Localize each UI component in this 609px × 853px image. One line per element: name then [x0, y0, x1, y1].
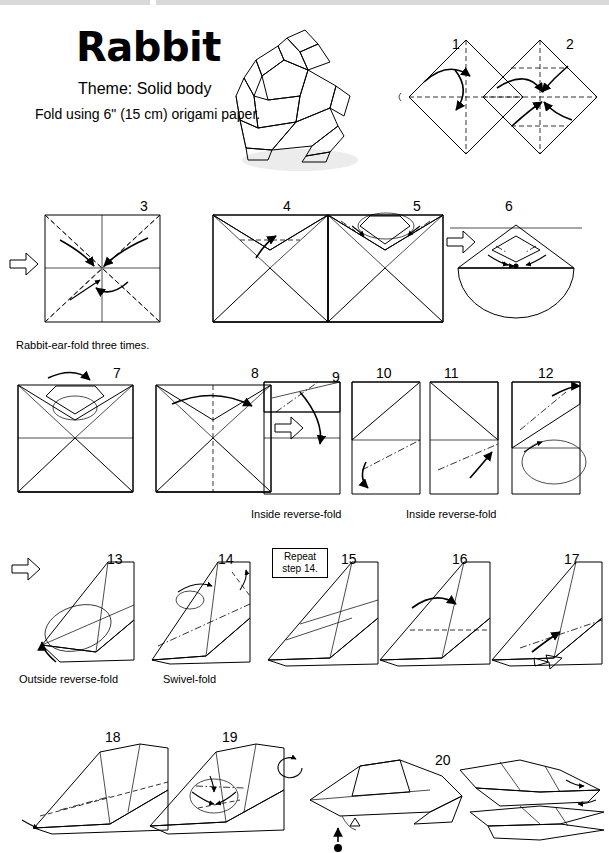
step-7-diagram	[18, 372, 133, 492]
step-11-diagram	[430, 382, 498, 494]
finished-model-illustration	[236, 30, 358, 171]
origami-diagrams	[0, 0, 609, 853]
step-10-diagram	[352, 382, 420, 494]
step-15-diagram	[268, 562, 378, 666]
step-5-diagram	[328, 213, 475, 322]
step-17-diagram	[492, 562, 602, 669]
step-18-diagram	[22, 744, 168, 834]
step-9-diagram	[264, 382, 340, 494]
rotate-symbol	[278, 758, 302, 778]
step-1-diagram	[399, 40, 523, 154]
step-4-diagram	[213, 215, 328, 322]
step-6-diagram	[450, 225, 582, 318]
step-19-diagram	[150, 744, 284, 834]
step-2-diagram	[483, 40, 597, 154]
step-12-diagram	[512, 382, 586, 494]
step-16-diagram	[380, 562, 490, 666]
step-14-diagram	[152, 562, 250, 664]
origami-instruction-page: Rabbit Theme: Solid body Fold using 6" (…	[0, 0, 609, 853]
step-3-diagram	[10, 215, 160, 322]
step-20-diagram	[310, 760, 604, 852]
step-13-diagram	[12, 558, 134, 662]
step-8-diagram	[156, 385, 303, 492]
